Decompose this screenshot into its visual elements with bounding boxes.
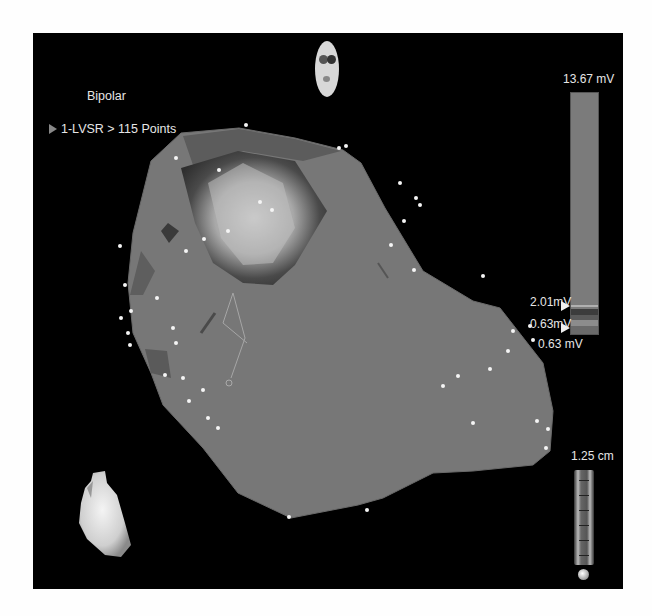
colorbar-band	[571, 326, 598, 334]
ruler-knob-icon[interactable]	[578, 569, 589, 580]
map-mode-label: Bipolar	[87, 89, 126, 103]
colorbar-band	[571, 305, 598, 307]
orientation-dot	[323, 76, 330, 82]
ruler-tick	[579, 540, 589, 541]
ruler-tick	[579, 510, 589, 511]
ruler-tick	[579, 555, 589, 556]
heart-thumbnail-icon	[79, 471, 131, 557]
colorbar-min-label: 0.63 mV	[538, 337, 583, 351]
mapping-viewport[interactable]: Bipolar 1-LVSR > 115 Points 13.67 mV 2.0…	[33, 33, 623, 589]
map-name-text: 1-LVSR > 115 Points	[61, 122, 176, 136]
upper-threshold-marker-icon[interactable]	[561, 301, 570, 311]
scale-label: 1.25 cm	[571, 449, 614, 463]
lower-threshold-marker-icon[interactable]	[561, 323, 570, 333]
ruler-tick	[579, 495, 589, 496]
triangle-marker-icon	[49, 124, 57, 134]
scale-ruler-icon	[574, 470, 594, 565]
orientation-dot	[327, 55, 336, 64]
ruler-tick	[579, 525, 589, 526]
anatomical-map[interactable]	[33, 33, 623, 589]
ruler-tick	[579, 480, 589, 481]
head-orientation-icon[interactable]	[315, 41, 339, 97]
map-name-label[interactable]: 1-LVSR > 115 Points	[49, 122, 176, 136]
voltage-colorbar[interactable]	[570, 92, 599, 335]
colorbar-max-label: 13.67 mV	[563, 72, 614, 86]
